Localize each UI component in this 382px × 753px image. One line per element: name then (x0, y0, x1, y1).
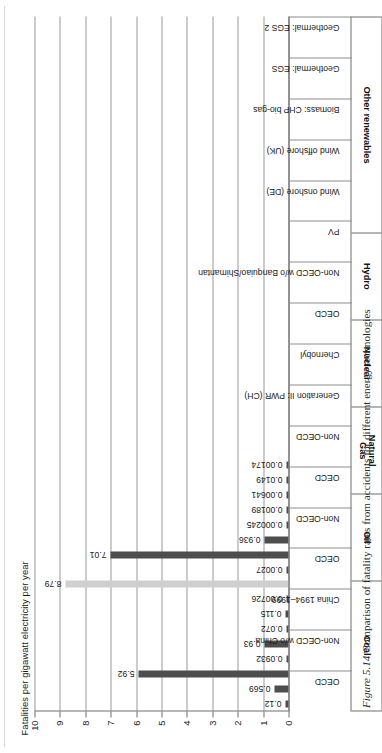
bar-chart: Fatalities per gigawatt electricity per … (0, 0, 382, 753)
bar-value-label: 0.12 (264, 698, 281, 708)
category-cell: Non-OECD (289, 425, 351, 466)
bar-value-label: 0.00189 (251, 504, 282, 514)
category-label: Wind offshore (UK) (266, 145, 339, 155)
bar-value-label: 0.000245 (246, 519, 282, 529)
category-cell: Wind offshore (UK) (289, 139, 351, 180)
y-axis-tick (136, 711, 137, 717)
gridline (186, 16, 187, 711)
y-axis-tick (212, 711, 213, 717)
y-axis-tick (237, 711, 238, 717)
category-label: China 1994–1999 (271, 594, 339, 604)
category-cell: Geothermal: EGS (289, 57, 351, 98)
category-label: Generation II: PWR (CH) (244, 390, 339, 400)
y-axis-tick-label: 5 (156, 720, 166, 725)
y-axis-tick-label: 9 (54, 720, 64, 725)
y-axis-tick-label: 4 (181, 720, 191, 725)
y-axis-tick-label: 10 (29, 720, 39, 730)
y-axis-tick-label: 7 (105, 720, 115, 725)
gridline (263, 16, 264, 711)
category-label: Geothermal: EGS (271, 63, 339, 73)
bar-value-label: 8.79 (44, 579, 61, 589)
category-label: PV (328, 226, 339, 236)
gridline (136, 16, 137, 711)
y-axis-tick (186, 711, 187, 717)
y-axis-tick (59, 711, 60, 717)
bar-value-label: 0.0027 (256, 564, 282, 574)
bar-value-label: 0.569 (248, 683, 270, 693)
category-label: Non-OECD (296, 431, 339, 441)
gridline (85, 16, 86, 711)
category-label: Non-OECD w/o Banquiao/Shimantan (198, 267, 339, 277)
y-axis-tick-label: 6 (131, 720, 141, 725)
category-cell: Non-OECD w/o China (289, 629, 351, 670)
gridline (212, 16, 213, 711)
figure-page: Fatalities per gigawatt electricity per … (0, 0, 382, 753)
category-cell: Chernobyl (289, 343, 351, 384)
y-axis-tick-label: 1 (258, 720, 268, 725)
category-label: Biomass: CHP bio-gas (253, 104, 339, 114)
chart-stage: Fatalities per gigawatt electricity per … (0, 0, 382, 753)
category-label: Wind onshore (DE) (266, 186, 339, 196)
category-label: Non-OECD (296, 513, 339, 523)
category-axis: OECDNon-OECD w/o ChinaChina 1994–1999OEC… (288, 16, 351, 711)
category-cell: OECD (289, 670, 351, 711)
y-axis-tick-label: 8 (80, 720, 90, 725)
category-label: OECD (314, 472, 339, 482)
bar-value-label: 7.01 (89, 549, 106, 559)
y-axis-tick (263, 711, 264, 717)
figure-caption: Figure 5.14 Comparison of fatality rates… (360, 8, 372, 708)
category-label: OECD (314, 308, 339, 318)
bar-value-label: 0.072 (260, 623, 282, 633)
gridline (161, 16, 162, 711)
category-cell: PV (289, 221, 351, 262)
gridline (110, 16, 111, 711)
gridline (237, 16, 238, 711)
category-cell: Biomass: CHP bio-gas (289, 98, 351, 139)
bar-value-label: 0.115 (260, 608, 281, 618)
category-label: Geothermal: EGS 2 (264, 22, 339, 32)
figure-number: Figure 5.14 (360, 656, 372, 708)
category-label: OECD (314, 553, 339, 563)
bar-value-label: 0.936 (239, 534, 261, 544)
plot-inner: 0123456789100.120.5695.920.09320.930.072… (34, 16, 288, 711)
y-axis-tick (34, 711, 35, 717)
bar-value-label: 0.0149 (256, 474, 282, 484)
y-axis-tick (85, 711, 86, 717)
category-label: Chernobyl (300, 349, 339, 359)
category-label: OECD (314, 676, 339, 686)
figure-caption-text: Comparison of fatality rates from accide… (360, 309, 372, 653)
bar (138, 670, 288, 677)
plot-area: 0123456789100.120.5695.920.09320.930.072… (34, 16, 288, 711)
category-label: Non-OECD w/o China (255, 635, 339, 645)
category-cell: OECD (289, 548, 351, 589)
y-axis-tick-label: 2 (232, 720, 242, 725)
gridline (59, 16, 60, 711)
category-cell: Non-OECD (289, 507, 351, 548)
category-cell: Non-OECD w/o Banquiao/Shimantan (289, 261, 351, 302)
category-cell: Geothermal: EGS 2 (289, 16, 351, 57)
y-axis-tick (161, 711, 162, 717)
category-cell: OECD (289, 302, 351, 343)
category-cell: China 1994–1999 (289, 588, 351, 629)
bar (65, 581, 288, 588)
bar (264, 536, 288, 543)
y-axis-tick (110, 711, 111, 717)
bar (110, 551, 288, 558)
category-cell: Wind onshore (DE) (289, 180, 351, 221)
y-axis-tick (288, 711, 289, 717)
gridline (34, 16, 35, 711)
y-axis-tick-label: 3 (207, 720, 217, 725)
bar-value-label: 0.00641 (251, 489, 282, 499)
category-cell: Generation II: PWR (CH) (289, 384, 351, 425)
bar-value-label: 0.0932 (255, 653, 281, 663)
bar-value-label: 0.00174 (251, 459, 282, 469)
bar-value-label: 5.92 (117, 668, 134, 678)
category-cell: OECD (289, 466, 351, 507)
figure-caption-area: Figure 5.14 Comparison of fatality rates… (352, 0, 382, 753)
bar (274, 685, 288, 692)
y-axis-tick-label: 0 (283, 720, 293, 725)
y-axis-title: Fatalities per gigawatt electricity per … (18, 415, 32, 735)
